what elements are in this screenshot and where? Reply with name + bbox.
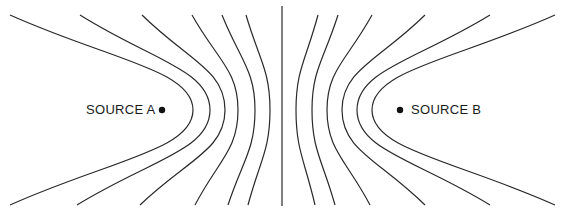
nodal-line-left-6 <box>246 15 270 205</box>
source-a-label: SOURCE A <box>86 102 156 117</box>
nodal-line-right-1 <box>296 15 318 205</box>
nodal-line-left-4 <box>192 15 238 205</box>
nodal-line-right-3 <box>327 15 372 205</box>
source-a-dot <box>159 107 165 113</box>
source-b-dot <box>397 107 403 113</box>
source-b-label: SOURCE B <box>411 102 481 117</box>
nodal-line-right-2 <box>312 15 338 205</box>
